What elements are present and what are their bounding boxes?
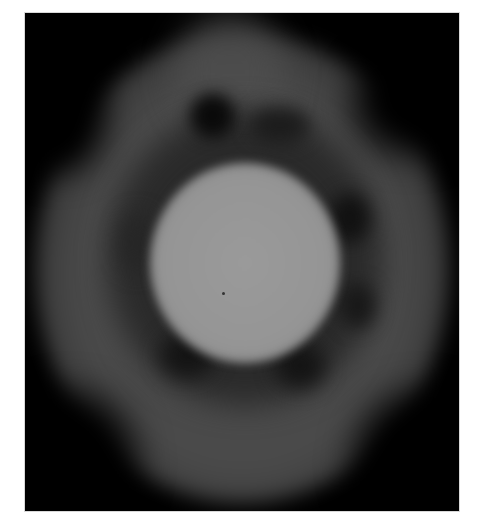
dark-spot xyxy=(340,283,375,328)
core-speck xyxy=(222,292,225,295)
dark-spot xyxy=(250,108,310,143)
dark-spot xyxy=(190,93,235,138)
micrograph-image xyxy=(25,13,459,511)
background-corner-top-right xyxy=(355,53,459,153)
bright-core xyxy=(150,163,340,363)
